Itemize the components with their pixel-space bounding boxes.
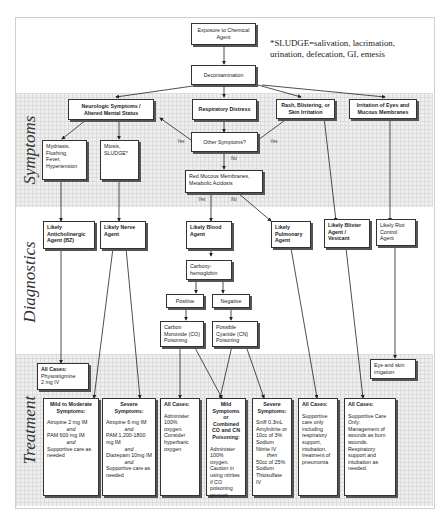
treatment-cn-mild: Mild Symptoms or Combined CO and CN Pois…: [206, 398, 246, 496]
edge-label-yes-rash: Yes: [270, 139, 278, 144]
treatment-bz-all-cases: All Cases: Physostigmine 2 mg IV: [37, 363, 89, 390]
edge-label-yes-blood: Yes: [198, 197, 206, 202]
treatment-co-all-cases: All Cases: Administer 100% oxygen. Consi…: [160, 398, 200, 496]
edge-label-no-pulmonary: No: [231, 197, 237, 202]
node-rash-blistering: Rash, Blistering, or Skin Irritation: [276, 99, 335, 119]
treatment-line: PAM 600 mg IM: [47, 432, 95, 439]
treatment-line: Supportive Care Only: Management of woun…: [348, 413, 392, 472]
treatment-line: Supportive care as needed: [106, 465, 152, 478]
treatment-title: Mild Symptoms or Combined CO and CN Pois…: [210, 401, 242, 441]
node-negative: Negative: [212, 294, 250, 308]
treatment-conjunction: and: [106, 446, 152, 453]
treatment-title: Severe Symptoms:: [256, 401, 288, 414]
treatment-line: Physostigmine: [41, 373, 85, 380]
treatment-eye-skin-irrigation: Eye and skin irrigation: [370, 359, 416, 379]
node-decontamination: Decontamination: [191, 65, 256, 85]
treatment-conjunction: and: [47, 426, 95, 433]
treatment-title: Severe Symptoms:: [106, 401, 152, 414]
node-likely-nerve-agent: Likely Nerve Agent: [100, 221, 146, 249]
treatment-line: Administer 100% oxygen. Consider hyperba…: [164, 413, 196, 453]
treatment-line: Diazepam 10mg IM: [106, 452, 152, 459]
treatment-conjunction: then: [256, 452, 288, 459]
treatment-line: 2 mg IV: [41, 379, 85, 386]
node-neurologic-symptoms: Neurologic Symptoms / Altered Mental Sta…: [68, 99, 154, 120]
section-label-symptoms: Symptoms: [20, 90, 40, 210]
node-carboxyhemoglobin: Carboxy-hemoglobin: [186, 260, 232, 280]
node-exposure: Exposure to Chemical Agent: [191, 23, 256, 45]
node-respiratory-distress: Respiratory Distress: [192, 99, 257, 120]
treatment-line: Supportive care as needed: [47, 446, 95, 459]
treatment-title: All Cases:: [41, 366, 85, 373]
node-likely-blister-agent: Likely Blister Agent / Vesicant: [324, 219, 370, 248]
treatment-conjunction: and: [47, 439, 95, 446]
treatment-title: All Cases:: [164, 401, 196, 408]
treatment-conjunction: and: [106, 426, 152, 433]
node-possible-cyanide: Possible Cyanide (CN) Poisoning: [212, 321, 258, 347]
footnote-line-1: *SLUDGE=salivation, lacrimation,: [270, 38, 430, 49]
node-positive: Positive: [166, 294, 204, 308]
treatment-line: Administer 100% oxygen. Caution in using…: [210, 446, 242, 499]
node-mydriasis: Mydriasis, Flushing, Fever, Hypertension: [42, 140, 87, 180]
edge-label-yes-neuro: Yes: [177, 139, 185, 144]
treatment-line: Atropine 6 mg IM: [106, 419, 152, 426]
node-carbon-monoxide: Carbon Monoxide (CO) Poisoning: [160, 321, 204, 347]
node-likely-anticholinergic: Likely Anticholinergic Agent (BZ): [43, 221, 95, 249]
treatment-line: Atropine 2 mg IM: [47, 419, 95, 426]
treatment-pulmonary-all-cases: All Cases: Supportive care only includin…: [298, 398, 338, 496]
treatment-line: 50cc of 25% Sodium Thiosulfate IV: [256, 459, 288, 485]
treatment-title: Mild to Moderate Symptoms:: [47, 401, 95, 414]
node-miosis-sludge: Miosis, SLUDGE*: [100, 140, 139, 180]
treatment-line: Sniff 0.3mL Amylnitrite or 10cc of 3% So…: [256, 419, 288, 452]
node-red-mucous-membranes: Red Mucous Membranes, Metabolic Acidosis: [185, 170, 263, 193]
node-eye-irritation: Irritation of Eyes and Mucous Membranes: [349, 99, 417, 119]
treatment-line: PAM 1,200-1800 mg IM: [106, 432, 152, 445]
node-other-symptoms: Other Symptoms?: [191, 132, 258, 152]
edge-label-no-other: No: [231, 156, 237, 161]
footnote-line-2: urination, defecation, GI, emesis: [270, 49, 430, 60]
treatment-blister-all-cases: All Cases: Supportive Care Only: Managem…: [344, 398, 396, 496]
treatment-title: All Cases:: [348, 401, 392, 408]
treatment-conjunction: and: [106, 459, 152, 466]
node-likely-blood-agent: Likely Blood Agent: [186, 221, 232, 249]
treatment-nerve-severe: Severe Symptoms: Atropine 6 mg IM and PA…: [102, 398, 156, 496]
node-likely-pulmonary-agent: Likely Pulmonary Agent: [271, 221, 311, 248]
section-label-diagnostics: Diagnostics: [20, 222, 40, 342]
treatment-nerve-mild: Mild to Moderate Symptoms: Atropine 2 mg…: [43, 398, 99, 496]
treatment-line: Supportive care only including respirato…: [302, 413, 334, 466]
sludge-footnote: *SLUDGE=salivation, lacrimation, urinati…: [270, 38, 430, 61]
node-likely-riot-control: Likely Riot Control Agent: [376, 219, 416, 246]
treatment-cn-severe: Severe Symptoms: Sniff 0.3mL Amylnitrite…: [252, 398, 292, 496]
treatment-title: All Cases:: [302, 401, 334, 408]
